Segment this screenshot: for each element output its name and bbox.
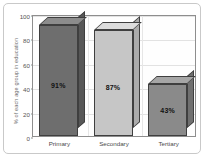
gridline-vertical	[142, 16, 143, 136]
chart-card: % of each age group in education 0204060…	[3, 3, 201, 154]
y-axis-tick-label: 100	[20, 13, 30, 20]
plot-area: 020406080100 91%87%43%	[32, 15, 196, 137]
y-tick-mark	[31, 113, 33, 114]
y-axis-tick-label: 60	[23, 61, 30, 68]
y-tick-mark	[31, 138, 33, 139]
x-axis-category-label: Tertiary	[141, 140, 196, 147]
y-axis-title: % of each age group in education	[13, 25, 19, 137]
y-tick-mark	[31, 64, 33, 65]
y-tick-mark	[31, 16, 33, 17]
x-axis-category-label: Primary	[32, 140, 87, 147]
bar-side-face	[78, 11, 85, 128]
bar: 91%	[39, 25, 78, 136]
y-tick-mark	[31, 40, 33, 41]
bar: 87%	[94, 30, 133, 136]
bar: 43%	[148, 84, 187, 136]
bar-front-face	[94, 30, 133, 136]
y-axis-tick-label: 40	[23, 86, 30, 93]
gridline-vertical	[88, 16, 89, 136]
bar-top-face	[94, 22, 142, 30]
y-axis-tick-label: 80	[23, 37, 30, 44]
bar-value-label: 91%	[39, 82, 78, 89]
y-tick-mark	[31, 89, 33, 90]
y-axis-tick-label: 20	[23, 110, 30, 117]
bar-front-face	[39, 25, 78, 136]
y-axis-tick-label: 0	[27, 135, 30, 142]
bar-side-face	[133, 16, 140, 128]
x-axis-category-label: Secondary	[87, 140, 142, 147]
bar-value-label: 43%	[148, 107, 187, 114]
bar-value-label: 87%	[94, 84, 133, 91]
